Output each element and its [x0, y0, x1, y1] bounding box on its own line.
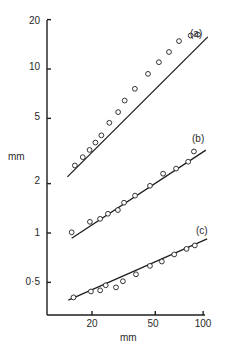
data-point-marker	[87, 148, 92, 153]
data-point-marker	[103, 283, 108, 288]
y-tick-label-20: 20	[10, 16, 40, 26]
data-point-marker	[87, 219, 92, 224]
data-point-marker	[69, 230, 74, 235]
fit-line	[72, 150, 206, 238]
data-point-marker	[174, 166, 179, 171]
y-tick-label-5: 5	[10, 112, 40, 122]
data-point-marker	[186, 159, 191, 164]
data-point-marker	[192, 149, 197, 154]
data-point-marker	[148, 183, 153, 188]
data-point-marker	[114, 285, 119, 290]
series-label-c: (c)	[196, 226, 208, 236]
data-point-marker	[192, 243, 197, 248]
data-point-marker	[167, 50, 172, 55]
y-tick-label-1: 1	[10, 228, 40, 238]
series-label-a: (a)	[190, 29, 202, 39]
data-point-marker	[122, 98, 127, 103]
data-point-marker	[116, 110, 121, 115]
data-point-marker	[148, 264, 153, 269]
fit-line	[67, 37, 207, 177]
data-point-marker	[72, 163, 77, 168]
y-tick-label-0-5: 0·5	[10, 277, 40, 287]
series-b	[69, 149, 206, 238]
data-point-marker	[115, 208, 120, 213]
series-a	[67, 32, 207, 177]
data-point-marker	[71, 295, 76, 300]
data-point-marker	[161, 171, 166, 176]
data-point-marker	[98, 216, 103, 221]
x-axis-label: mm	[120, 333, 137, 343]
x-tick-label-20: 20	[77, 319, 107, 329]
data-point-marker	[80, 155, 85, 160]
data-point-marker	[159, 259, 164, 264]
data-point-marker	[98, 288, 103, 293]
y-tick-label-2: 2	[10, 176, 40, 186]
data-point-marker	[157, 60, 162, 65]
data-point-marker	[89, 289, 94, 294]
data-point-marker	[99, 133, 104, 138]
data-point-marker	[184, 246, 189, 251]
data-point-marker	[107, 120, 112, 125]
data-point-marker	[177, 39, 182, 44]
data-point-marker	[146, 71, 151, 76]
data-point-marker	[172, 252, 177, 257]
data-point-marker	[122, 200, 127, 205]
series-layer	[67, 32, 207, 300]
y-tick-label-10: 10	[10, 62, 40, 72]
series-label-b: (b)	[192, 134, 204, 144]
data-point-marker	[134, 272, 139, 277]
y-axis-label: mm	[8, 152, 25, 162]
axes	[47, 20, 205, 315]
data-point-marker	[132, 86, 137, 91]
series-c	[68, 239, 207, 300]
data-point-marker	[93, 140, 98, 145]
data-point-marker	[133, 193, 138, 198]
data-point-marker	[106, 211, 111, 216]
x-tick-label-50: 50	[138, 319, 168, 329]
data-point-marker	[121, 279, 126, 284]
x-tick-label-100: 100	[188, 319, 218, 329]
